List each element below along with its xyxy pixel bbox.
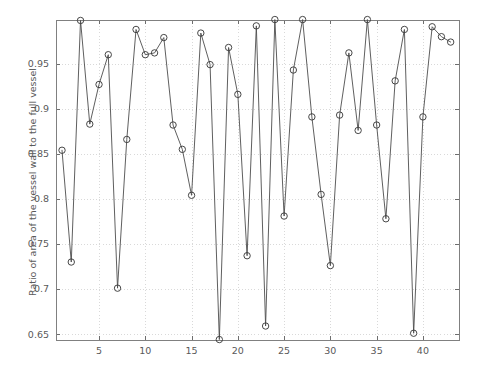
chart-figure: 0.650.70.750.80.850.90.95 51015202530354… xyxy=(0,0,482,373)
y-tick-label: 0.65 xyxy=(28,329,49,340)
x-tick-label: 35 xyxy=(371,345,383,356)
series-markers xyxy=(59,16,454,342)
x-tick-label: 30 xyxy=(324,345,336,356)
series-line xyxy=(62,20,451,340)
x-tick-label: 10 xyxy=(139,345,151,356)
x-tick-label: 25 xyxy=(278,345,290,356)
x-tick-label: 40 xyxy=(417,345,429,356)
x-tick-label: 15 xyxy=(186,345,198,356)
y-axis-title: Ratio of area of the vessel wall to the … xyxy=(27,68,38,296)
x-axis-tick-labels: 510152025303540 xyxy=(96,345,429,356)
x-tick-label: 5 xyxy=(96,345,102,356)
x-tick-label: 20 xyxy=(232,345,244,356)
data-series xyxy=(59,16,454,342)
line-chart-plot: 0.650.70.750.80.850.90.95 51015202530354… xyxy=(0,0,482,373)
y-tick-label: 0.95 xyxy=(28,58,49,69)
